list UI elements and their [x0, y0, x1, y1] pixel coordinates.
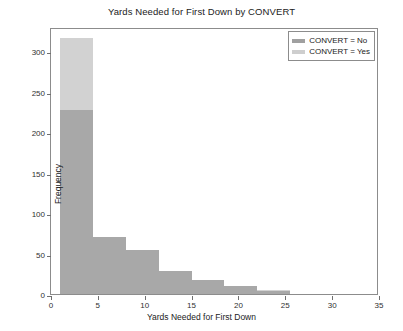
y-tick-mark [47, 134, 51, 135]
chart-legend: CONVERT = No CONVERT = Yes [288, 31, 375, 61]
x-tick-label: 5 [86, 301, 110, 310]
y-tick-label: 300 [3, 48, 45, 57]
y-tick-mark [47, 256, 51, 257]
x-tick-mark [192, 296, 193, 300]
x-tick-label: 30 [320, 301, 344, 310]
bar-segment-no [126, 250, 159, 295]
x-tick-mark [379, 296, 380, 300]
legend-item: CONVERT = Yes [292, 46, 370, 57]
y-tick-mark [47, 175, 51, 176]
bar-segment-yes [60, 38, 93, 111]
bar-segment-no [93, 237, 126, 294]
x-tick-mark [145, 296, 146, 300]
histogram-bar [224, 286, 257, 294]
histogram-bar [93, 237, 126, 294]
x-tick-label: 20 [226, 301, 250, 310]
y-tick-label: 200 [3, 129, 45, 138]
y-tick-label: 50 [3, 251, 45, 260]
histogram-bar [192, 280, 225, 294]
histogram-bar [257, 290, 290, 294]
x-tick-label: 35 [367, 301, 391, 310]
bar-segment-no [224, 286, 257, 294]
y-tick-label: 100 [3, 210, 45, 219]
x-tick-mark [238, 296, 239, 300]
x-tick-label: 15 [180, 301, 204, 310]
bar-segment-no [159, 271, 192, 294]
x-tick-label: 25 [273, 301, 297, 310]
y-tick-label: 150 [3, 170, 45, 179]
y-tick-mark [47, 94, 51, 95]
legend-label-yes: CONVERT = Yes [309, 47, 370, 56]
bars-layer [51, 29, 377, 294]
y-axis-label: Frequency [53, 74, 63, 294]
y-tick-mark [47, 215, 51, 216]
y-tick-label: 0 [3, 291, 45, 300]
x-tick-label: 0 [39, 301, 63, 310]
histogram-bar [159, 271, 192, 294]
legend-swatch-yes-icon [292, 50, 305, 54]
y-tick-label: 250 [3, 89, 45, 98]
x-tick-mark [285, 296, 286, 300]
y-tick-mark [47, 53, 51, 54]
x-tick-mark [332, 296, 333, 300]
bar-segment-yes [257, 290, 290, 291]
bar-segment-no [257, 291, 290, 294]
histogram-bar [60, 38, 93, 294]
plot-area: CONVERT = No CONVERT = Yes 0501001502002… [50, 28, 378, 295]
chart-root: Yards Needed for First Down by CONVERT C… [0, 0, 403, 331]
x-tick-mark [51, 296, 52, 300]
legend-swatch-no-icon [292, 39, 305, 43]
x-tick-label: 10 [133, 301, 157, 310]
x-axis-label: Yards Needed for First Down [0, 312, 403, 322]
legend-label-no: CONVERT = No [309, 36, 367, 45]
chart-title: Yards Needed for First Down by CONVERT [0, 6, 403, 17]
bar-segment-no [192, 280, 225, 294]
bar-segment-no [60, 110, 93, 294]
histogram-bar [126, 250, 159, 295]
legend-item: CONVERT = No [292, 35, 370, 46]
x-tick-mark [98, 296, 99, 300]
